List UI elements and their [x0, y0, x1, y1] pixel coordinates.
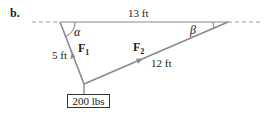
right-cable: [84, 22, 228, 84]
left-length-label: 5 ft: [52, 50, 67, 61]
f2-subscript: 2: [140, 47, 144, 56]
f1-label: F1: [78, 42, 89, 57]
part-label: b.: [10, 7, 20, 19]
right-length-label: 12 ft: [151, 58, 171, 69]
alpha-label: α: [74, 26, 80, 38]
force-diagram: b. 13 ft α β 5 ft F1 F2 12 ft 200 lbs: [0, 0, 274, 117]
f1-subscript: 1: [85, 48, 89, 57]
top-length-label: 13 ft: [128, 8, 148, 19]
weight-box: 200 lbs: [67, 94, 110, 108]
f2-label: F2: [133, 41, 144, 56]
beta-angle-arc: [213, 22, 214, 28]
beta-label: β: [190, 24, 196, 36]
